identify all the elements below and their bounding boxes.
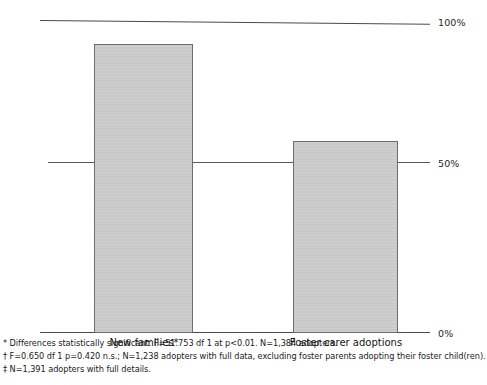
bar-foster-carer-adoptions [293, 141, 398, 333]
footnotes: * Differences statistically significant:… [3, 337, 447, 377]
bar-chart: 100% 50% 0% New families* Foster carer a… [40, 16, 487, 356]
footnote-double-dagger: ‡ N=1,391 adopters with full details. [3, 363, 447, 376]
bar-new-families [94, 44, 193, 333]
footnote-asterisk: * Differences statistically significant:… [3, 337, 447, 350]
gridline-100 [40, 20, 430, 25]
footnote-dagger: † F=0.650 df 1 p=0.420 n.s.; N=1,238 ado… [3, 350, 447, 363]
bar-texture [294, 142, 397, 332]
ytick-label-100: 100% [438, 17, 466, 28]
plot-area: 100% 50% 0% New families* Foster carer a… [40, 16, 487, 356]
bar-texture [95, 45, 192, 332]
ytick-label-50: 50% [438, 158, 459, 169]
